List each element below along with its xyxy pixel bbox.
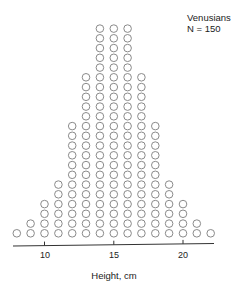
data-point — [138, 74, 146, 82]
data-point — [110, 191, 118, 199]
data-point — [152, 181, 160, 189]
data-point — [152, 161, 160, 169]
data-point — [68, 220, 76, 228]
data-point — [110, 74, 118, 82]
data-point — [55, 230, 63, 238]
data-point — [124, 113, 132, 121]
data-point — [152, 122, 160, 130]
data-point — [124, 93, 132, 101]
data-point — [82, 181, 90, 189]
data-point — [110, 161, 118, 169]
data-point — [82, 161, 90, 169]
data-point — [110, 230, 118, 238]
data-point — [82, 113, 90, 121]
data-point — [110, 44, 118, 52]
data-point — [68, 132, 76, 140]
data-point — [110, 93, 118, 101]
data-point — [138, 122, 146, 130]
data-point — [110, 54, 118, 62]
data-point — [124, 54, 132, 62]
data-point — [68, 230, 76, 238]
data-point — [138, 191, 146, 199]
data-point — [124, 44, 132, 52]
data-point — [96, 25, 104, 33]
data-point — [96, 171, 104, 179]
data-point — [152, 200, 160, 208]
data-point — [82, 93, 90, 101]
data-point — [96, 74, 104, 82]
data-point — [207, 230, 215, 238]
data-point — [179, 210, 187, 218]
data-point — [138, 220, 146, 228]
data-point — [96, 103, 104, 111]
data-point — [152, 171, 160, 179]
data-point — [152, 210, 160, 218]
data-point — [110, 210, 118, 218]
data-point — [124, 25, 132, 33]
data-point — [55, 220, 63, 228]
data-point — [124, 74, 132, 82]
legend: Venusians N = 150 — [187, 12, 231, 34]
data-point — [110, 132, 118, 140]
data-point — [138, 152, 146, 160]
data-point — [96, 152, 104, 160]
data-point — [110, 122, 118, 130]
dot-markers — [13, 25, 215, 237]
data-point — [68, 171, 76, 179]
data-point — [124, 171, 132, 179]
data-point — [41, 220, 49, 228]
data-point — [68, 142, 76, 150]
data-point — [96, 132, 104, 140]
data-point — [124, 64, 132, 72]
data-point — [82, 103, 90, 111]
data-point — [124, 191, 132, 199]
data-point — [124, 35, 132, 43]
data-point — [68, 161, 76, 169]
data-point — [193, 220, 201, 228]
data-point — [124, 132, 132, 140]
data-point — [124, 142, 132, 150]
data-point — [96, 122, 104, 130]
legend-group-label: Venusians — [187, 12, 231, 23]
data-point — [165, 181, 173, 189]
data-point — [13, 230, 21, 238]
data-point — [68, 181, 76, 189]
data-point — [165, 191, 173, 199]
data-point — [82, 171, 90, 179]
data-point — [110, 103, 118, 111]
data-point — [82, 122, 90, 130]
data-point — [193, 230, 201, 238]
data-point — [96, 200, 104, 208]
data-point — [179, 200, 187, 208]
data-point — [68, 200, 76, 208]
data-point — [96, 83, 104, 91]
data-point — [110, 25, 118, 33]
data-point — [110, 64, 118, 72]
data-point — [165, 230, 173, 238]
data-point — [96, 64, 104, 72]
data-point — [82, 220, 90, 228]
data-point — [55, 210, 63, 218]
data-point — [110, 142, 118, 150]
data-point — [82, 200, 90, 208]
data-point — [124, 210, 132, 218]
data-point — [55, 181, 63, 189]
data-point — [82, 142, 90, 150]
data-point — [124, 181, 132, 189]
data-point — [96, 44, 104, 52]
data-point — [110, 220, 118, 228]
data-point — [138, 142, 146, 150]
data-point — [41, 200, 49, 208]
data-point — [55, 200, 63, 208]
data-point — [138, 161, 146, 169]
data-point — [82, 152, 90, 160]
data-point — [152, 220, 160, 228]
data-point — [27, 220, 35, 228]
data-point — [152, 142, 160, 150]
data-point — [96, 54, 104, 62]
data-point — [110, 35, 118, 43]
data-point — [68, 122, 76, 130]
data-point — [96, 191, 104, 199]
data-point — [152, 152, 160, 160]
data-point — [82, 191, 90, 199]
